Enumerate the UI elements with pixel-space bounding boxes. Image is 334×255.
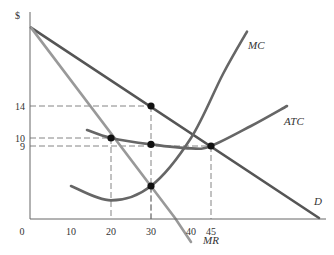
x-tick-label: 0 (20, 226, 25, 237)
point-marker (107, 134, 114, 141)
atc-label: ATC (283, 115, 304, 127)
x-tick-label: 30 (146, 226, 156, 237)
y-tick-label: 14 (15, 101, 25, 112)
point-marker (147, 141, 154, 148)
point-marker (147, 102, 154, 109)
x-tick-label: 20 (106, 226, 116, 237)
x-tick-label: 40 (186, 226, 196, 237)
point-marker (147, 182, 154, 189)
cost-curves-chart: $ 0102030404514109 MC ATC D MR (0, 0, 334, 255)
point-marker (207, 142, 214, 149)
mr-label: MR (202, 234, 219, 246)
x-tick-label: 10 (66, 226, 76, 237)
curve-d (31, 28, 319, 218)
d-label: D (313, 195, 322, 207)
y-tick-label: 9 (20, 141, 25, 152)
mc-label: MC (247, 39, 265, 51)
y-axis-label: $ (15, 10, 20, 21)
